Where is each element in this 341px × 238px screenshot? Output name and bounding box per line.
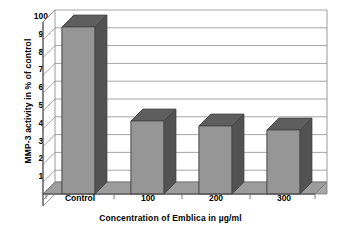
x-tick-label-200: 200 [209, 193, 223, 203]
bar-right-side [95, 15, 107, 194]
bar-front [267, 130, 300, 194]
x-tick-label-300: 300 [277, 193, 291, 203]
bar-right-side [300, 118, 312, 194]
x-tick-label-control: Control [65, 193, 95, 203]
x-axis-title: Concentration of Emblica in µg/ml [0, 213, 341, 223]
bar-front [199, 126, 232, 194]
bar-200 [199, 114, 244, 194]
x-tick-label-100: 100 [141, 193, 155, 203]
bar-300 [267, 118, 312, 194]
bar-front [131, 121, 164, 194]
bar-right-side [232, 114, 244, 194]
bar-100 [131, 109, 176, 194]
bar-control [62, 15, 107, 194]
bar-chart: MMP-3 activity in % of control 100 90 80… [0, 0, 341, 238]
bar-right-side [164, 109, 176, 194]
bar-front [62, 27, 95, 194]
